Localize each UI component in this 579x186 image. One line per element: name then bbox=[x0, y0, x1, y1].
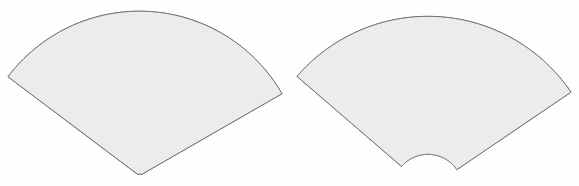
landmass bbox=[231, 121, 247, 149]
conic-map-secant bbox=[289, 0, 579, 186]
map-frame-outline bbox=[297, 16, 571, 169]
map-panel-right bbox=[289, 0, 579, 186]
landmass bbox=[524, 122, 542, 150]
conic-map-tangent bbox=[0, 0, 290, 186]
figure-root bbox=[0, 0, 579, 186]
landmass bbox=[199, 140, 212, 148]
map-frame-outline bbox=[8, 11, 282, 175]
map-panel-left bbox=[0, 0, 290, 186]
landmass bbox=[492, 144, 505, 153]
